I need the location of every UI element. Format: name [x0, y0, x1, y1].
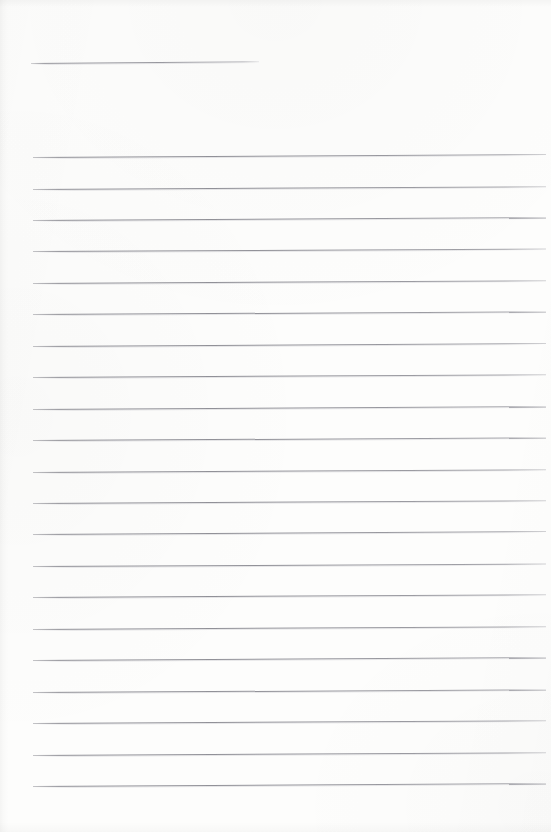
ruled-line	[33, 280, 546, 284]
ruled-line	[33, 249, 546, 253]
scan-edge-bottom	[0, 822, 551, 832]
ruled-line-shadow	[33, 501, 546, 505]
ruled-line	[33, 752, 546, 756]
title-rule-shadow	[31, 62, 259, 65]
ruled-line	[33, 563, 546, 567]
ruled-line	[33, 531, 546, 535]
ruled-line-shadow	[33, 564, 546, 568]
ruled-line	[33, 500, 546, 504]
ruled-line-shadow	[33, 690, 546, 694]
ruled-line	[33, 689, 546, 693]
ruled-line-shadow	[33, 313, 546, 317]
notepad-page	[0, 0, 551, 832]
ruled-line	[33, 437, 546, 441]
scan-edge-left	[0, 0, 9, 832]
ruled-line-shadow	[33, 627, 546, 631]
ruled-line-shadow	[33, 438, 546, 442]
ruled-line	[33, 312, 546, 316]
ruled-line-shadow	[33, 753, 546, 757]
ruled-line-shadow	[33, 250, 546, 254]
ruled-line-shadow	[33, 187, 546, 191]
ruled-line	[33, 783, 546, 787]
ruled-line-shadow	[33, 376, 546, 380]
ruled-line	[33, 186, 546, 190]
ruled-line	[33, 469, 546, 473]
ruled-line	[33, 626, 546, 630]
ruled-line-shadow	[33, 344, 546, 348]
ruled-line-shadow	[33, 721, 546, 725]
ruled-line	[33, 343, 546, 347]
ruled-line	[33, 154, 546, 158]
paper-texture	[0, 0, 551, 832]
ruled-line-shadow	[33, 596, 546, 600]
ruled-line-shadow	[33, 155, 546, 159]
ruled-line	[33, 657, 546, 661]
ruled-line-shadow	[33, 784, 546, 788]
scan-edge-top	[0, 0, 551, 7]
ruled-line	[33, 217, 546, 221]
ruled-line-shadow	[33, 532, 546, 536]
ruled-line-shadow	[33, 658, 546, 662]
ruled-line	[33, 720, 546, 724]
ruled-line	[33, 595, 546, 599]
title-rule	[31, 61, 259, 64]
ruled-line-shadow	[33, 407, 546, 411]
ruled-line-shadow	[33, 470, 546, 474]
ruled-line	[33, 406, 546, 410]
ruled-line-shadow	[33, 218, 546, 222]
ruled-line	[33, 375, 546, 379]
ruled-line-shadow	[33, 281, 546, 285]
